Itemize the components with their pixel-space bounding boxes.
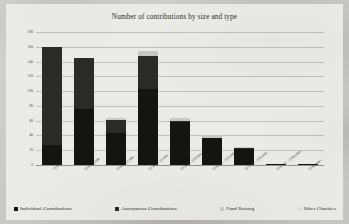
x-axis-slot: £100,000+ bbox=[292, 165, 324, 205]
stacked-bar[interactable] bbox=[170, 118, 190, 165]
plot-area: 020406080100120140160180 bbox=[36, 32, 324, 165]
bar-slot bbox=[228, 32, 260, 165]
legend-label: Anonymous Contributions bbox=[121, 206, 177, 211]
y-axis-tick-label: 20 bbox=[29, 148, 33, 152]
bar-slot bbox=[68, 32, 100, 165]
bar-slot bbox=[196, 32, 228, 165]
legend-swatch-icon bbox=[115, 207, 119, 211]
bar-slot bbox=[36, 32, 68, 165]
y-axis-tick-label: 80 bbox=[29, 104, 33, 108]
stacked-bar[interactable] bbox=[138, 51, 158, 165]
legend-item[interactable]: Individual Contributions bbox=[14, 206, 72, 211]
y-axis-tick-label: 40 bbox=[29, 133, 33, 137]
legend-item[interactable]: Anonymous Contributions bbox=[115, 206, 177, 211]
legend-swatch-icon bbox=[298, 207, 302, 211]
stacked-bar[interactable] bbox=[202, 135, 222, 165]
x-axis-slot: £50,001 - £100,000 bbox=[260, 165, 292, 205]
y-axis-tick-label: 60 bbox=[29, 119, 33, 123]
y-axis-tick-label: 0 bbox=[31, 163, 33, 167]
x-axis-slot: £25,001 - £50,000 bbox=[228, 165, 260, 205]
stacked-bar[interactable] bbox=[74, 58, 94, 165]
bar-slot bbox=[164, 32, 196, 165]
legend-label: Fund Raising bbox=[226, 206, 254, 211]
legend-label: Other Charities bbox=[304, 206, 336, 211]
legend-swatch-icon bbox=[14, 207, 18, 211]
bar-series-group bbox=[36, 32, 324, 165]
y-axis-tick-label: 180 bbox=[28, 30, 33, 34]
x-axis-slot: £10,001 - £25,000 bbox=[196, 165, 228, 205]
stacked-bar[interactable] bbox=[42, 47, 62, 165]
chart-legend: Individual ContributionsAnonymous Contri… bbox=[14, 206, 336, 211]
y-axis-tick-label: 140 bbox=[28, 60, 33, 64]
y-axis-tick-label: 120 bbox=[28, 74, 33, 78]
bar-slot bbox=[132, 32, 164, 165]
bar-segment[interactable] bbox=[106, 120, 126, 133]
bar-segment[interactable] bbox=[74, 109, 94, 165]
x-axis-slot: <£100 bbox=[36, 165, 68, 205]
x-axis-slot: £101 - £500 bbox=[68, 165, 100, 205]
legend-swatch-icon bbox=[220, 207, 224, 211]
bar-slot bbox=[260, 32, 292, 165]
bar-segment[interactable] bbox=[42, 47, 62, 145]
x-axis-labels: <£100£101 - £500£501 - £1,000£1,001 - £5… bbox=[36, 165, 324, 205]
y-axis-tick-label: 100 bbox=[28, 89, 33, 93]
bar-segment[interactable] bbox=[74, 58, 94, 109]
bar-segment[interactable] bbox=[138, 89, 158, 165]
chart-canvas: Number of contributions by size and type… bbox=[6, 4, 343, 220]
bar-slot bbox=[100, 32, 132, 165]
bar-segment[interactable] bbox=[170, 122, 190, 165]
bar-segment[interactable] bbox=[138, 56, 158, 89]
stacked-bar[interactable] bbox=[106, 118, 126, 165]
legend-item[interactable]: Fund Raising bbox=[220, 206, 254, 211]
x-axis-slot: £501 - £1,000 bbox=[100, 165, 132, 205]
legend-label: Individual Contributions bbox=[20, 206, 72, 211]
chart-title: Number of contributions by size and type bbox=[6, 13, 343, 21]
x-axis-slot: £1,001 - £5,000 bbox=[132, 165, 164, 205]
x-axis-slot: £5,001 - £10,000 bbox=[164, 165, 196, 205]
legend-item[interactable]: Other Charities bbox=[298, 206, 336, 211]
y-axis-tick-label: 160 bbox=[28, 45, 33, 49]
bar-segment[interactable] bbox=[106, 133, 126, 165]
bar-slot bbox=[292, 32, 324, 165]
